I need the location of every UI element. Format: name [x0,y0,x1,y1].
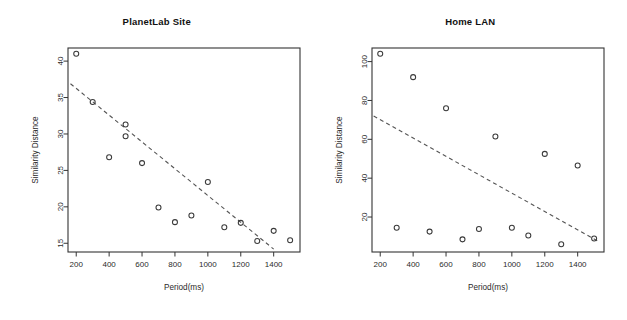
svg-text:1000: 1000 [502,260,520,269]
svg-text:25: 25 [56,165,65,174]
svg-text:40: 40 [56,56,65,65]
svg-text:Period(ms): Period(ms) [164,283,204,292]
svg-text:40: 40 [360,173,369,182]
svg-text:800: 800 [168,260,182,269]
svg-text:600: 600 [439,260,453,269]
svg-text:Similarity Distance: Similarity Distance [335,116,344,184]
svg-text:1400: 1400 [568,260,586,269]
svg-text:400: 400 [406,260,420,269]
svg-text:600: 600 [135,260,149,269]
svg-text:1200: 1200 [232,260,250,269]
figure-two-scatter-panels: PlanetLab Site 2004006008001000120014001… [0,0,627,320]
svg-text:30: 30 [56,129,65,138]
svg-text:Similarity Distance: Similarity Distance [31,116,40,184]
svg-text:1200: 1200 [535,260,553,269]
panel-home-lan: Home LAN 2004006008001000120014002040608… [314,0,627,320]
svg-text:20: 20 [360,212,369,221]
svg-text:200: 200 [373,260,387,269]
svg-text:80: 80 [360,95,369,104]
svg-text:Period(ms): Period(ms) [467,283,507,292]
svg-text:20: 20 [56,202,65,211]
svg-text:200: 200 [70,260,84,269]
panel-planetlab-site: PlanetLab Site 2004006008001000120014001… [0,0,314,320]
svg-text:60: 60 [360,134,369,143]
svg-text:400: 400 [102,260,116,269]
svg-text:15: 15 [56,238,65,247]
svg-text:100: 100 [360,54,369,68]
svg-text:35: 35 [56,93,65,102]
svg-text:800: 800 [472,260,486,269]
plot-area-home-lan: 20040060080010001200140020406080100Perio… [314,0,627,320]
svg-text:1400: 1400 [265,260,283,269]
svg-text:1000: 1000 [199,260,217,269]
plot-area-planetlab: 200400600800100012001400152025303540Peri… [0,0,314,320]
